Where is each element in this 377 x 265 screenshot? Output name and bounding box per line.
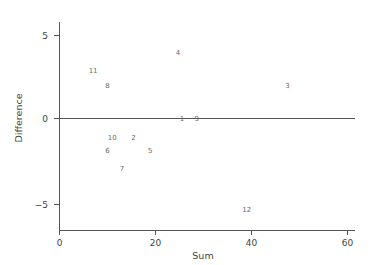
y-axis-title: Difference bbox=[13, 93, 24, 142]
data-point-label: 6 bbox=[105, 147, 110, 155]
data-point-label: 5 bbox=[148, 147, 152, 155]
data-point-label: 9 bbox=[195, 115, 199, 123]
y-tick-label: 0 bbox=[42, 114, 48, 124]
plot-canvas: 5 0 −5 0 20 40 60 Sum Difference 1184319… bbox=[0, 0, 377, 265]
y-tick-labels: 5 0 −5 bbox=[35, 31, 49, 210]
x-tick-label: 40 bbox=[246, 238, 258, 248]
data-point-label: 11 bbox=[89, 67, 98, 75]
data-point-label: 12 bbox=[242, 206, 251, 214]
data-point-label: 2 bbox=[131, 134, 135, 142]
data-point-label: 4 bbox=[176, 49, 181, 57]
axes-group bbox=[59, 22, 355, 231]
x-tick-label: 0 bbox=[57, 238, 63, 248]
x-axis-title: Sum bbox=[192, 250, 213, 261]
x-tick-labels: 0 20 40 60 bbox=[57, 238, 354, 248]
y-axis-ticks bbox=[54, 36, 59, 205]
data-point-label: 10 bbox=[108, 134, 117, 142]
data-point-label: 1 bbox=[180, 115, 184, 123]
data-point-label: 7 bbox=[120, 165, 124, 173]
x-tick-label: 20 bbox=[150, 238, 162, 248]
x-tick-label: 60 bbox=[342, 238, 354, 248]
data-point-layer: 118431910265712 bbox=[89, 49, 290, 215]
y-tick-label: −5 bbox=[35, 200, 48, 210]
scatter-plot-figure: 5 0 −5 0 20 40 60 Sum Difference 1184319… bbox=[0, 0, 377, 265]
y-tick-label: 5 bbox=[42, 31, 48, 41]
data-point-label: 3 bbox=[285, 82, 289, 90]
data-point-label: 8 bbox=[105, 82, 109, 90]
